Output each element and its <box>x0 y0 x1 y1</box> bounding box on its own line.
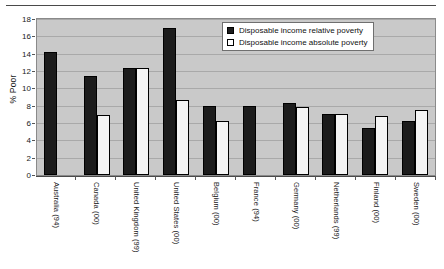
x-label-cell: Canada (00) <box>76 182 116 266</box>
y-tick-label: 14 <box>22 49 31 58</box>
x-label-cell: France (94) <box>236 182 276 266</box>
x-axis-label: France (94) <box>252 182 261 222</box>
bar-absolute-poverty <box>136 68 149 175</box>
bar-absolute-poverty <box>335 114 348 175</box>
x-tick-mark <box>276 176 316 180</box>
header-divider <box>6 5 436 6</box>
bar-relative-poverty <box>362 128 375 175</box>
y-tick-mark <box>32 158 35 159</box>
x-tick-mark <box>356 176 396 180</box>
x-axis-label: Germany (00) <box>292 182 301 229</box>
legend-item-relative: Disposable income relative poverty <box>227 26 368 35</box>
bar-absolute-poverty <box>216 121 229 175</box>
legend-swatch-black-square-icon <box>227 27 234 34</box>
bar-group <box>156 19 196 175</box>
bar-absolute-poverty <box>375 116 388 175</box>
x-axis-label: Canada (00) <box>92 182 101 225</box>
x-tick-mark <box>316 176 356 180</box>
y-tick-label: 16 <box>22 32 31 41</box>
x-label-cell: United Kingdom (99) <box>116 182 156 266</box>
legend-swatch-white-square-icon <box>227 39 234 46</box>
x-tick-mark <box>76 176 116 180</box>
bar-absolute-poverty <box>415 110 428 175</box>
x-label-cell: Belgium (00) <box>196 182 236 266</box>
bar-relative-poverty <box>44 52 57 175</box>
bar-relative-poverty <box>283 103 296 175</box>
x-axis-label: United States (00) <box>172 182 181 244</box>
x-tick-mark <box>36 176 76 180</box>
x-label-cell: Netherlands (99) <box>316 182 356 266</box>
y-tick-label: 4 <box>27 136 31 145</box>
bar-relative-poverty <box>163 28 176 175</box>
y-tick-mark <box>32 54 35 55</box>
bar-group <box>395 19 435 175</box>
bar-relative-poverty <box>84 76 97 175</box>
x-axis-label: Finland (00) <box>372 182 381 223</box>
y-tick-mark <box>32 123 35 124</box>
bar-relative-poverty <box>402 121 415 175</box>
x-tick-mark <box>116 176 156 180</box>
legend-label-relative: Disposable income relative poverty <box>239 26 363 35</box>
y-tick-label: 10 <box>22 84 31 93</box>
x-tick-mark <box>196 176 236 180</box>
y-tick-label: 8 <box>27 101 31 110</box>
bar-relative-poverty <box>322 114 335 175</box>
y-tick-mark <box>32 106 35 107</box>
y-tick-label: 12 <box>22 67 31 76</box>
y-axis-tick-labels: 024681012141618 <box>0 18 35 176</box>
x-axis-ticks <box>36 176 436 180</box>
chart-legend: Disposable income relative poverty Dispo… <box>222 22 374 51</box>
legend-item-absolute: Disposable income absolute poverty <box>227 38 368 47</box>
x-axis-label: Sweden (00) <box>412 182 421 226</box>
y-tick-mark <box>32 140 35 141</box>
x-axis-label: United Kingdom (99) <box>132 182 141 253</box>
y-tick-mark <box>32 88 35 89</box>
bar-absolute-poverty <box>176 100 189 175</box>
y-tick-label: 6 <box>27 119 31 128</box>
y-tick-label: 0 <box>27 171 31 180</box>
bar-relative-poverty <box>203 106 216 175</box>
bar-relative-poverty <box>123 68 136 175</box>
x-tick-mark <box>156 176 196 180</box>
x-label-cell: Sweden (00) <box>396 182 436 266</box>
x-axis-label: Australia (94) <box>52 182 61 228</box>
x-label-cell: United States (00) <box>156 182 196 266</box>
x-axis-label: Netherlands (99) <box>332 182 341 239</box>
y-tick-label: 2 <box>27 153 31 162</box>
chart-container: % Poor 024681012141618 Australia (94)Can… <box>0 0 444 269</box>
y-tick-mark <box>32 71 35 72</box>
x-tick-mark <box>396 176 436 180</box>
bar-relative-poverty <box>243 106 256 175</box>
y-tick-mark <box>32 19 35 20</box>
bar-group <box>117 19 157 175</box>
y-tick-mark <box>32 175 35 176</box>
y-tick-mark <box>32 36 35 37</box>
bar-absolute-poverty <box>97 115 110 175</box>
bar-group <box>37 19 77 175</box>
bar-absolute-poverty <box>296 107 309 175</box>
x-label-cell: Germany (00) <box>276 182 316 266</box>
y-tick-label: 18 <box>22 15 31 24</box>
x-tick-mark <box>236 176 276 180</box>
x-axis-label: Belgium (00) <box>212 182 221 226</box>
x-label-cell: Australia (94) <box>36 182 76 266</box>
legend-label-absolute: Disposable income absolute poverty <box>239 38 368 47</box>
x-axis-labels: Australia (94)Canada (00)United Kingdom … <box>36 182 436 266</box>
x-label-cell: Finland (00) <box>356 182 396 266</box>
bar-group <box>77 19 117 175</box>
